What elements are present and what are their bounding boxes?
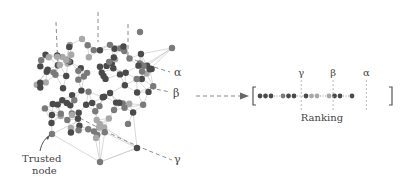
network-node [138, 51, 144, 57]
network-node [44, 69, 50, 75]
network-node [79, 36, 85, 42]
network-node [75, 76, 81, 82]
network-node [150, 83, 156, 89]
network-node [46, 54, 52, 60]
network-node [38, 57, 44, 63]
beta-label: β [173, 87, 179, 100]
ranking-title: Ranking [301, 112, 344, 123]
right-bracket [389, 87, 392, 105]
network-edge [104, 127, 137, 148]
network-node [54, 54, 60, 60]
ranking-dot [286, 94, 291, 99]
network-node [58, 111, 64, 117]
network-node [64, 117, 70, 123]
network-node [93, 135, 99, 141]
network-node [57, 62, 63, 68]
network-node [89, 100, 95, 106]
network-edge [133, 112, 137, 148]
network-node [110, 65, 116, 71]
network-node [117, 71, 123, 77]
network-node [139, 68, 145, 74]
network-node [75, 127, 81, 133]
ranking-marker-label: β [330, 67, 336, 78]
network-node [85, 126, 91, 132]
ranking-dot [292, 94, 297, 99]
network-node [67, 102, 73, 108]
network-node [37, 80, 43, 86]
network-node [100, 73, 106, 79]
network-node [123, 70, 129, 76]
network-node [91, 128, 97, 134]
network-node [91, 47, 97, 53]
network-node [111, 54, 117, 60]
network-node [49, 131, 55, 137]
ranking-dot [304, 94, 309, 99]
network-node [134, 145, 140, 151]
left-bracket [253, 87, 256, 105]
ranking-dot [309, 94, 314, 99]
network-node [76, 110, 82, 116]
network-node [120, 43, 126, 49]
network-node [122, 82, 128, 88]
network-node [59, 97, 65, 103]
network-node [43, 79, 49, 85]
gamma-label: γ [174, 153, 181, 166]
alpha-label: α [174, 66, 182, 79]
network-node [106, 115, 112, 121]
diagram-svg: α β γ Trusted node γβα Ranking [0, 0, 406, 183]
network-node [106, 59, 112, 65]
network-node [126, 55, 132, 61]
network-node [102, 129, 108, 135]
network-node [49, 112, 55, 118]
ranking-dot [350, 94, 355, 99]
network-node [63, 73, 69, 79]
network-node [75, 116, 81, 122]
network-node [134, 89, 140, 95]
network-node [71, 97, 77, 103]
network-node [121, 105, 127, 111]
network-node [107, 90, 113, 96]
network-node [81, 73, 87, 79]
network-node [63, 57, 69, 63]
ranking-marker-label: γ [298, 67, 304, 78]
network-node [68, 51, 74, 57]
ranking-dot [258, 94, 263, 99]
ranking-marker-label: α [363, 67, 370, 78]
network-node [50, 101, 56, 107]
network-edge [100, 148, 137, 162]
network-node [48, 120, 54, 126]
network-node [96, 103, 102, 109]
ranking-list: γβα [253, 67, 392, 110]
network-node [97, 64, 103, 70]
diagram-canvas: α β γ Trusted node γβα Ranking [0, 0, 406, 183]
network-node [92, 108, 98, 114]
network-node [97, 159, 103, 165]
network-node [52, 72, 58, 78]
network-node [75, 68, 81, 74]
network-node [66, 44, 72, 50]
network-nodes [34, 29, 176, 165]
ranking-dot [338, 94, 343, 99]
ranking-dot [269, 94, 274, 99]
arrow-head-icon [240, 93, 249, 100]
network-node [116, 100, 122, 106]
network-node [83, 102, 89, 108]
ranking-dot [315, 94, 320, 99]
ranking-dot [263, 94, 268, 99]
ranking-dot [327, 94, 332, 99]
network-node [78, 87, 84, 93]
network-node [137, 29, 143, 35]
network-node [140, 102, 146, 108]
network-node [68, 129, 74, 135]
network-node [84, 42, 90, 48]
network-node [169, 45, 175, 51]
network-node [145, 89, 151, 95]
network-node [130, 109, 136, 115]
network-node [86, 54, 92, 60]
trusted-node-label: Trusted [22, 153, 62, 164]
network-edge [105, 132, 137, 148]
ranking-dot [281, 94, 286, 99]
network-node [42, 105, 48, 111]
trusted-node-label-line2: node [32, 165, 57, 176]
network-node [93, 117, 99, 123]
